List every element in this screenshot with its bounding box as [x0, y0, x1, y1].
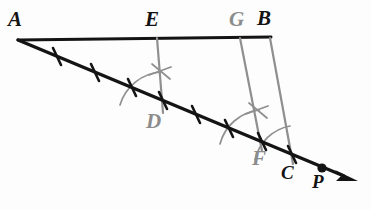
cross-on-GF — [246, 103, 268, 118]
vertex-label-C: C — [281, 163, 294, 182]
vertex-label-A: A — [8, 9, 22, 30]
vertex-label-B: B — [257, 8, 271, 29]
vertex-label-G: G — [229, 9, 244, 30]
vertex-label-D: D — [146, 111, 161, 132]
vertex-label-F: F — [252, 148, 266, 169]
ray-A-to-P — [18, 40, 344, 176]
segment-AB — [18, 37, 271, 40]
arc-at-D — [120, 72, 161, 105]
vertex-label-E: E — [145, 9, 159, 30]
vertex-label-P: P — [312, 172, 324, 191]
geometry-figure: A E G B D F C P — [0, 0, 371, 210]
